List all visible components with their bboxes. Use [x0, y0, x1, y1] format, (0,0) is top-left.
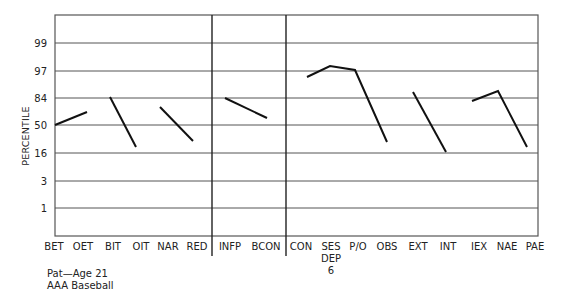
- x-category-label: IEX: [471, 241, 487, 252]
- y-axis-title: PERCENTILE: [20, 106, 31, 166]
- x-category-label: OIT: [133, 241, 151, 252]
- caption-subject: Pat—Age 21: [47, 268, 114, 280]
- chart-caption: Pat—Age 21 AAA Baseball: [47, 268, 114, 292]
- profile-segment: [110, 97, 136, 147]
- profile-segment: [307, 66, 387, 142]
- x-category-label: 6: [328, 265, 334, 276]
- section-dividers: [212, 15, 286, 256]
- x-category-label: CON: [290, 241, 312, 252]
- x-category-label: BET: [44, 241, 64, 252]
- profile-lines: [55, 66, 527, 152]
- y-tick-label: 84: [34, 93, 47, 104]
- y-tick-label: 16: [34, 148, 47, 159]
- x-category-label: BIT: [105, 241, 122, 252]
- gridlines: [55, 43, 538, 208]
- x-category-label: P/O: [349, 241, 366, 252]
- y-tick-label: 3: [41, 176, 47, 187]
- y-tick-label: 99: [34, 38, 47, 49]
- x-category-label: SES: [321, 241, 340, 252]
- y-tick-label: 1: [41, 203, 47, 214]
- x-category-label: EXT: [408, 241, 428, 252]
- x-axis-categories: BETOETBITOITNARREDINFPBCONCONSESDEP6P/OO…: [44, 241, 544, 276]
- profile-segment: [160, 107, 193, 141]
- x-category-label: BCON: [251, 241, 280, 252]
- profile-segment: [472, 91, 527, 147]
- caption-league: AAA Baseball: [47, 280, 114, 292]
- profile-segment: [225, 98, 267, 118]
- y-axis-ticks: 999784501631: [34, 38, 47, 214]
- profile-segment: [55, 112, 87, 125]
- y-tick-label: 50: [34, 120, 47, 131]
- x-category-label: OBS: [377, 241, 398, 252]
- x-category-label: NAR: [157, 241, 178, 252]
- x-category-label: RED: [187, 241, 208, 252]
- x-category-label: OET: [73, 241, 94, 252]
- x-category-label: DEP: [321, 253, 341, 264]
- profile-segment: [413, 92, 446, 152]
- x-category-label: NAE: [497, 241, 518, 252]
- x-category-label: INFP: [219, 241, 241, 252]
- y-tick-label: 97: [34, 66, 47, 77]
- percentile-profile-chart: 999784501631 PERCENTILE BETOETBITOITNARR…: [0, 0, 564, 305]
- x-category-label: INT: [440, 241, 457, 252]
- x-category-label: PAE: [526, 241, 545, 252]
